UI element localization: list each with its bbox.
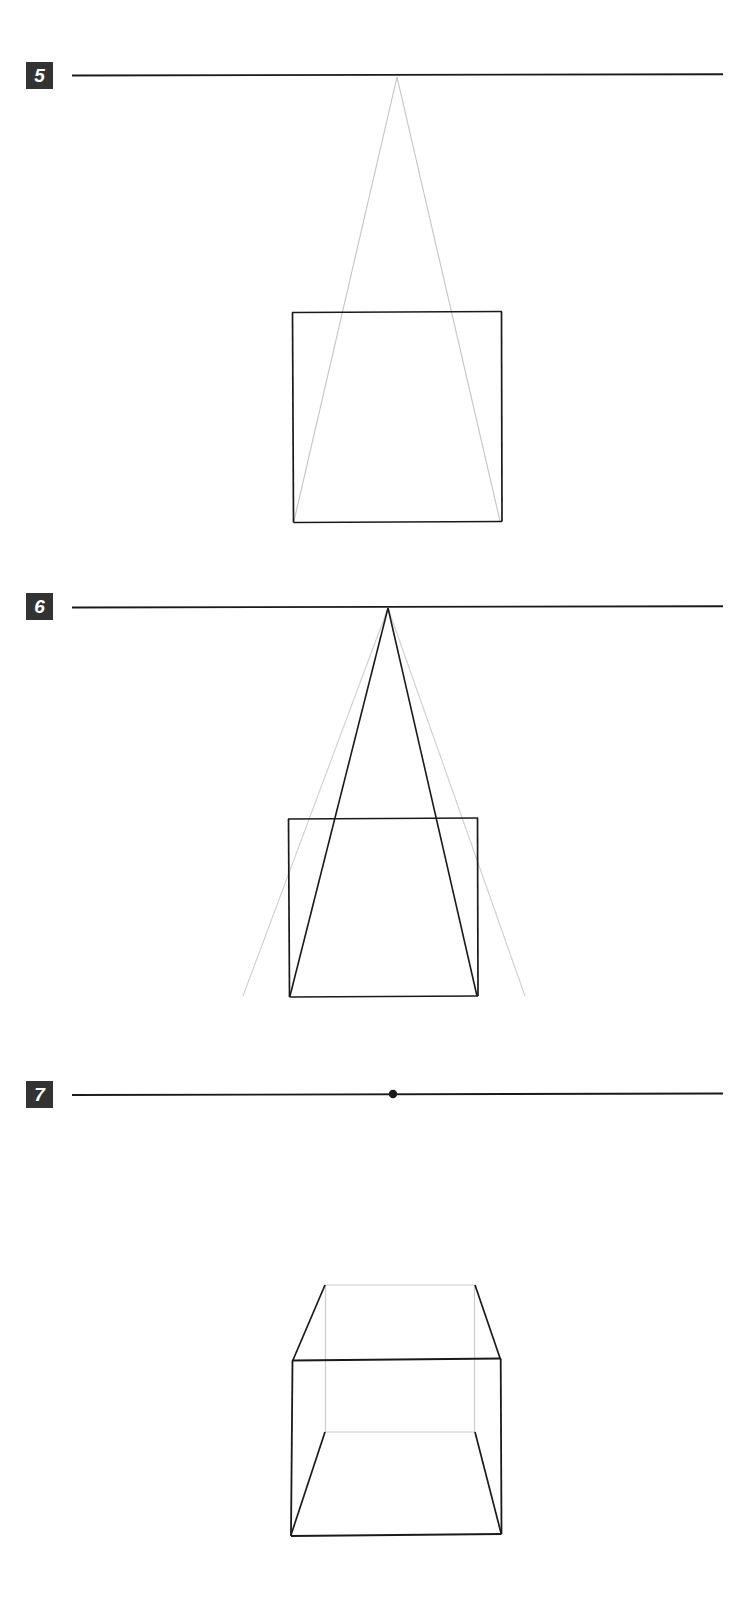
panel-7-receding-top-right-edge xyxy=(475,1285,500,1358)
panel-5-construction-line-left xyxy=(294,77,397,521)
panel-7-front-top-edge xyxy=(292,1359,501,1361)
drawing-sheet: 5 6 7 xyxy=(0,0,753,1597)
panel-7-receding-bottom-right-edge xyxy=(475,1432,501,1533)
panel-6-construction-line-right xyxy=(388,608,525,996)
panel-5-horizon-line xyxy=(72,74,723,75)
panel-6-group xyxy=(72,606,723,997)
step-badge-5: 5 xyxy=(26,62,53,89)
panel-7-front-bottom-edge xyxy=(291,1534,502,1536)
panel-7-front-left-edge xyxy=(291,1361,293,1537)
panel-5-square-left xyxy=(293,313,294,523)
panel-6-construction-line-left xyxy=(243,608,388,996)
panel-6-square-top xyxy=(288,818,478,819)
panel-6-square-bottom xyxy=(290,996,479,997)
panel-6-square-right xyxy=(478,818,479,996)
vanishing-point-dot xyxy=(389,1090,397,1098)
panel-7-horizon-line xyxy=(72,1094,723,1096)
panel-5-construction-line-right xyxy=(397,77,500,521)
panel-5-square-bottom xyxy=(294,522,503,523)
perspective-diagram-canvas xyxy=(0,0,753,1597)
panel-7-front-right-edge xyxy=(501,1359,502,1535)
step-badge-7: 7 xyxy=(26,1081,53,1108)
panel-7-group xyxy=(72,1090,723,1536)
panel-6-horizon-line xyxy=(72,606,723,607)
panel-6-receding-edge-left xyxy=(290,608,388,996)
step-badge-6: 6 xyxy=(26,593,53,620)
panel-7-receding-bottom-left-edge xyxy=(291,1432,325,1535)
panel-6-square-left xyxy=(289,819,290,997)
panel-5-square-top xyxy=(292,312,502,313)
panel-6-receding-edge-right xyxy=(388,608,477,996)
panel-5-square-right xyxy=(502,312,503,522)
panel-7-receding-top-left-edge xyxy=(293,1285,325,1360)
panel-5-group xyxy=(72,74,723,522)
